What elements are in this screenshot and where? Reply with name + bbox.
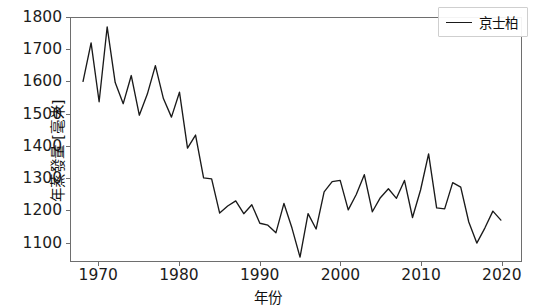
x-tick-mark	[340, 262, 341, 266]
y-axis-title: 年蒸發量 [毫米]	[46, 51, 67, 251]
x-tick-mark	[502, 262, 503, 266]
x-tick-label: 2020	[482, 266, 521, 284]
x-tick-mark	[260, 262, 261, 266]
series-kings-park	[71, 18, 521, 261]
x-tick-mark	[421, 262, 422, 266]
legend-line-swatch	[446, 22, 472, 23]
x-tick-label: 1980	[159, 266, 198, 284]
y-tick-label: 1800	[0, 8, 62, 26]
legend[interactable]: 京士柏	[438, 7, 528, 37]
x-tick-label: 1970	[79, 266, 118, 284]
series-line-kings-park	[83, 27, 501, 257]
plot-area	[70, 17, 522, 262]
x-tick-mark	[179, 262, 180, 266]
x-tick-mark	[98, 262, 99, 266]
x-tick-label: 2010	[401, 266, 440, 284]
x-axis-title: 年份	[0, 286, 536, 307]
x-tick-label: 2000	[321, 266, 360, 284]
legend-label-kings-park: 京士柏	[479, 12, 518, 32]
x-tick-label: 1990	[240, 266, 279, 284]
